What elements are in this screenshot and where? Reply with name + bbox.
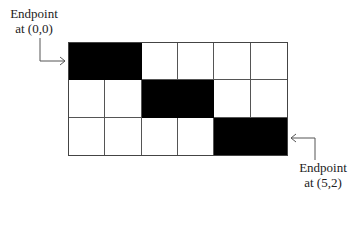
- end-arrow-icon: [291, 134, 315, 160]
- end-label-line2: at (5,2): [288, 175, 358, 190]
- end-endpoint-label: Endpoint at (5,2): [288, 160, 358, 190]
- end-label-line1: Endpoint: [288, 160, 358, 175]
- start-arrow-icon: [40, 38, 65, 65]
